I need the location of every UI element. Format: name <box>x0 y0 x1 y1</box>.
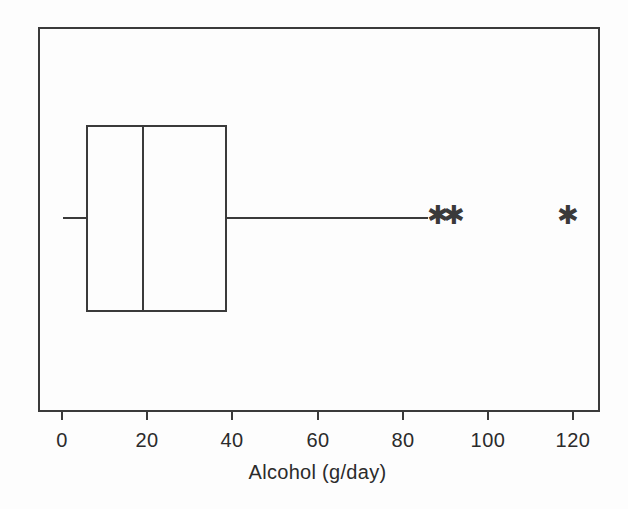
x-tick-label-80: 80 <box>391 429 414 452</box>
x-tick-label-120: 120 <box>556 429 591 452</box>
x-tick-label-20: 20 <box>135 429 158 452</box>
outlier-asterisk-icon: ✱ <box>557 200 579 230</box>
plot-border <box>39 28 599 411</box>
axis-ticks <box>62 411 573 420</box>
x-tick-label-100: 100 <box>471 429 506 452</box>
quartile-box <box>87 126 226 311</box>
plot-frame <box>39 28 599 411</box>
x-tick-label-60: 60 <box>306 429 329 452</box>
x-axis-title: Alcohol (g/day) <box>249 461 387 484</box>
x-tick-label-0: 0 <box>56 429 68 452</box>
outlier-asterisk-icon: ✱ <box>443 200 465 230</box>
outlier-markers: ✱✱✱ <box>427 200 579 230</box>
x-tick-label-40: 40 <box>220 429 243 452</box>
box-and-whiskers <box>63 126 428 311</box>
boxplot-figure: ✱✱✱ 020406080100120 Alcohol (g/day) <box>0 0 628 509</box>
